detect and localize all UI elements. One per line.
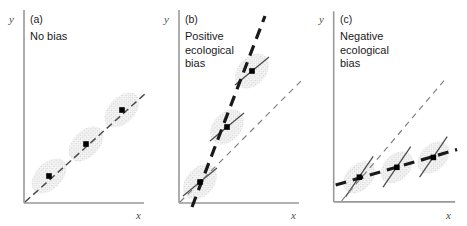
panel-a-x-axis-label: x bbox=[136, 210, 141, 221]
group-mean-point bbox=[431, 155, 437, 161]
panel-a-no-bias: y x (a) No bias bbox=[0, 0, 155, 226]
panel-c-x-axis-label: x bbox=[446, 210, 451, 221]
panel-c-tag: (c) bbox=[340, 14, 352, 25]
ecological-bias-figure: y x (a) No bias bbox=[0, 0, 467, 226]
group-mean-point bbox=[394, 165, 400, 171]
panel-c-negative-ecological-bias: y x (c) Negative ecological bias bbox=[310, 0, 465, 226]
group-mean-point bbox=[249, 68, 255, 74]
panel-b-positive-ecological-bias: y x (b) Positive ecological bias bbox=[155, 0, 310, 226]
panel-a-y-axis-label: y bbox=[9, 14, 14, 25]
group-mean-point bbox=[46, 173, 52, 179]
panel-a-regression-line bbox=[25, 93, 146, 202]
panel-a-plot bbox=[0, 0, 155, 226]
panel-b-y-axis-label: y bbox=[164, 14, 169, 25]
panel-a-caption: No bias bbox=[30, 30, 67, 44]
group-mean-point bbox=[119, 107, 125, 113]
group-mean-point bbox=[197, 179, 203, 185]
panel-c-y-axis-label: y bbox=[319, 14, 324, 25]
group-mean-point bbox=[83, 141, 89, 147]
panel-c-caption: Negative ecological bias bbox=[340, 30, 389, 71]
panel-b-tag: (b) bbox=[185, 14, 198, 25]
group-mean-point bbox=[357, 174, 363, 180]
panel-b-x-axis-label: x bbox=[291, 210, 296, 221]
group-mean-point bbox=[224, 124, 230, 130]
panel-a-tag: (a) bbox=[30, 14, 43, 25]
panel-b-caption: Positive ecological bias bbox=[185, 30, 234, 71]
